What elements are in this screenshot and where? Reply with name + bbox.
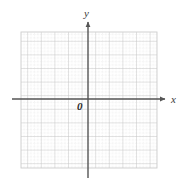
- y-axis-label: y: [84, 8, 89, 19]
- coordinate-plane-svg: [0, 0, 184, 182]
- coordinate-grid-figure: y x 0: [0, 0, 184, 182]
- grid-area: [21, 32, 157, 168]
- x-axis-label: x: [171, 94, 176, 105]
- origin-label: 0: [77, 101, 83, 112]
